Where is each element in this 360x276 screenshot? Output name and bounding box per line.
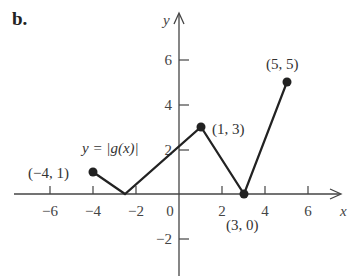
- svg-text:4: 4: [261, 203, 269, 219]
- point-5-5: [283, 78, 292, 87]
- chart: x y −6 −4 −2 0 2 4 6 6 4 2 −2: [0, 0, 360, 276]
- svg-text:0: 0: [166, 203, 174, 219]
- label-neg4-1: (−4, 1): [28, 165, 69, 182]
- point-3-0: [240, 190, 249, 199]
- svg-text:−2: −2: [128, 203, 144, 219]
- x-axis: x: [14, 189, 347, 219]
- svg-text:−6: −6: [42, 203, 58, 219]
- svg-text:6: 6: [165, 52, 173, 68]
- y-ticks: [179, 60, 189, 239]
- x-axis-label: x: [339, 203, 347, 219]
- svg-text:4: 4: [165, 97, 173, 113]
- point-neg4-1: [89, 168, 98, 177]
- svg-text:2: 2: [218, 203, 226, 219]
- y-axis-label: y: [161, 12, 170, 28]
- svg-text:6: 6: [304, 203, 312, 219]
- svg-text:−2: −2: [156, 231, 172, 247]
- label-5-5: (5, 5): [266, 56, 299, 73]
- label-3-0: (3, 0): [226, 217, 259, 234]
- svg-text:−4: −4: [85, 203, 101, 219]
- function-label: y = |g(x)|: [80, 140, 139, 157]
- label-1-3: (1, 3): [212, 121, 245, 138]
- point-1-3: [197, 123, 206, 132]
- point-labels: (−4, 1) (1, 3) (3, 0) (5, 5): [28, 56, 299, 234]
- function-line: [93, 82, 287, 194]
- x-tick-labels: −6 −4 −2 0 2 4 6: [42, 203, 312, 219]
